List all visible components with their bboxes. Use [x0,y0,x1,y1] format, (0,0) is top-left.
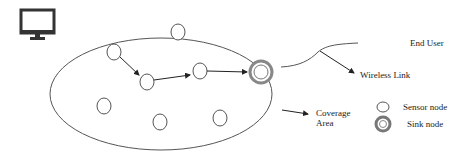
sensor-node [153,114,167,130]
legend-sensor-symbol [377,102,389,112]
legend-sensor-label: Sensor node [403,102,447,112]
coverage-area-ellipse [50,38,272,150]
sensor-node [97,98,111,114]
routing-arrows [120,57,247,80]
legend-sink-symbol [376,117,390,131]
coverage-area-label: Coverage Area [316,108,350,128]
sensor-node [193,63,207,79]
wireless-link-curve [281,43,358,67]
monitor-icon [21,10,54,40]
legend-sink-label: Sink node [407,119,443,129]
sink-node [250,61,272,83]
sensor-node [171,24,185,40]
sensor-nodes [97,24,227,130]
wireless-link-pointer [320,51,354,73]
coverage-area-pointer [282,110,308,114]
end-user-label: End User [410,38,444,48]
sensor-node [107,44,121,60]
coverage-area-label-line2: Area [316,118,350,128]
wireless-link-label: Wireless Link [360,70,410,80]
sensor-node [140,74,154,90]
coverage-area-label-line1: Coverage [316,108,350,118]
sensor-node [213,110,227,126]
